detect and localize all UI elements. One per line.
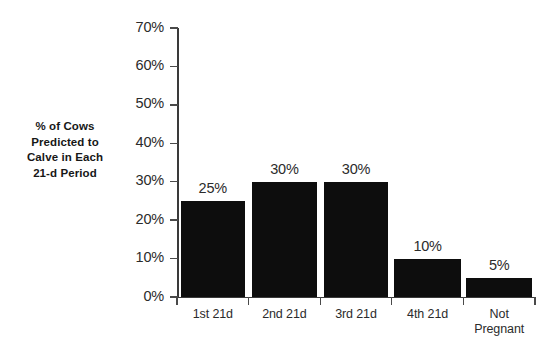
- x-axis-tick: [463, 297, 464, 305]
- y-axis-tick: [170, 66, 178, 67]
- y-axis-tick: [170, 104, 178, 105]
- bar-value-label: 30%: [244, 161, 324, 177]
- bar: [324, 182, 388, 297]
- y-axis-tick-label: 10%: [118, 249, 164, 265]
- x-axis-category-label: 1st 21d: [177, 307, 249, 322]
- y-axis-title: % of Cows Predicted to Calve in Each 21-…: [6, 119, 124, 181]
- x-axis-tick: [534, 297, 535, 305]
- bar-value-label: 5%: [459, 257, 539, 273]
- x-axis-category-label: Not Pregnant: [463, 307, 535, 337]
- y-axis-tick-label: 70%: [118, 19, 164, 35]
- y-axis-tick: [170, 27, 178, 28]
- bar-chart-figure: % of Cows Predicted to Calve in Each 21-…: [0, 0, 552, 348]
- x-axis-tick: [176, 297, 177, 305]
- y-axis-tick-label: 60%: [118, 57, 164, 73]
- bar: [181, 201, 245, 297]
- bar: [252, 182, 316, 297]
- y-axis-tick: [170, 143, 178, 144]
- y-axis-tick-label: 30%: [118, 172, 164, 188]
- bar-value-label: 25%: [173, 180, 253, 196]
- y-axis-tick-label: 0%: [118, 288, 164, 304]
- y-axis-tick: [170, 219, 178, 220]
- y-axis-tick-label: 50%: [118, 95, 164, 111]
- bar-value-label: 30%: [316, 161, 396, 177]
- bar-value-label: 10%: [388, 238, 468, 254]
- y-axis-tick: [170, 258, 178, 259]
- x-axis-tick: [248, 297, 249, 305]
- x-axis-category-label: 4th 21d: [392, 307, 464, 322]
- x-axis-category-label: 2nd 21d: [249, 307, 321, 322]
- bar: [394, 259, 461, 297]
- x-axis-tick: [391, 297, 392, 305]
- y-axis-tick-label: 40%: [118, 134, 164, 150]
- bar: [466, 278, 532, 297]
- y-axis-tick-label: 20%: [118, 211, 164, 227]
- x-axis-tick: [320, 297, 321, 305]
- x-axis-category-label: 3rd 21d: [320, 307, 392, 322]
